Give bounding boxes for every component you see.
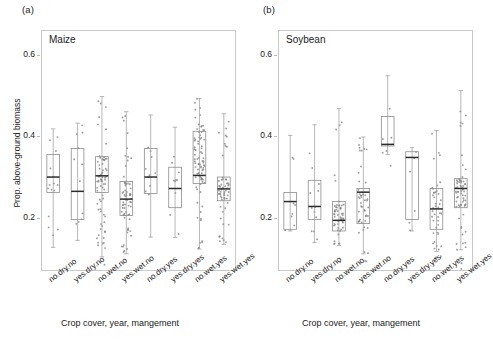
data-point bbox=[318, 183, 320, 185]
data-point bbox=[194, 162, 196, 164]
data-point bbox=[148, 174, 150, 176]
data-point bbox=[195, 149, 197, 151]
data-point bbox=[390, 137, 392, 139]
data-point bbox=[103, 159, 105, 161]
data-point bbox=[456, 179, 458, 181]
data-point bbox=[341, 213, 343, 215]
data-point bbox=[437, 216, 439, 218]
data-point bbox=[57, 229, 59, 231]
data-point bbox=[194, 158, 196, 160]
data-point bbox=[99, 199, 101, 201]
data-point bbox=[434, 248, 436, 250]
y-tick-mark bbox=[37, 136, 40, 137]
data-point bbox=[202, 167, 204, 169]
data-point bbox=[127, 229, 129, 231]
data-point bbox=[460, 268, 462, 270]
data-point bbox=[227, 194, 229, 196]
data-point bbox=[337, 214, 339, 216]
data-point bbox=[220, 191, 222, 193]
data-point bbox=[196, 202, 198, 204]
data-point bbox=[200, 211, 202, 213]
data-point bbox=[311, 207, 313, 209]
y-tick-label: 0.4 bbox=[250, 130, 272, 140]
data-point bbox=[124, 207, 126, 209]
data-point bbox=[462, 123, 464, 125]
data-point bbox=[359, 137, 361, 139]
data-point bbox=[462, 164, 464, 166]
data-point bbox=[197, 168, 199, 170]
data-point bbox=[456, 243, 458, 245]
data-point bbox=[178, 171, 180, 173]
data-point bbox=[196, 128, 198, 130]
data-point bbox=[221, 199, 223, 201]
data-point bbox=[432, 194, 434, 196]
data-point bbox=[48, 226, 50, 228]
data-point bbox=[194, 161, 196, 163]
data-point bbox=[291, 216, 293, 218]
data-point bbox=[337, 223, 339, 225]
data-point bbox=[465, 200, 467, 202]
data-point bbox=[102, 198, 104, 200]
data-point bbox=[386, 150, 388, 152]
data-point bbox=[340, 207, 342, 209]
data-point bbox=[218, 132, 220, 134]
data-point bbox=[432, 232, 434, 234]
data-point bbox=[431, 133, 433, 135]
data-point bbox=[49, 139, 51, 141]
y-tick-label: 0.2 bbox=[250, 212, 272, 222]
data-point bbox=[334, 205, 336, 207]
data-point bbox=[336, 209, 338, 211]
data-point bbox=[196, 217, 198, 219]
data-point bbox=[195, 166, 197, 168]
data-point bbox=[123, 176, 125, 178]
data-point bbox=[78, 221, 80, 223]
data-point bbox=[130, 206, 132, 208]
data-point bbox=[439, 154, 441, 156]
data-point bbox=[463, 191, 465, 193]
boxplot-canvas-b bbox=[241, 0, 481, 341]
data-point bbox=[433, 158, 435, 160]
data-point bbox=[104, 264, 106, 266]
data-point bbox=[335, 129, 337, 131]
y-tick-mark bbox=[37, 55, 40, 56]
data-point bbox=[337, 210, 339, 212]
data-point bbox=[218, 190, 220, 192]
data-point bbox=[50, 168, 52, 170]
data-point bbox=[200, 179, 202, 181]
data-point bbox=[105, 106, 107, 108]
data-point bbox=[48, 215, 50, 217]
data-point bbox=[225, 179, 227, 181]
data-point bbox=[335, 180, 337, 182]
data-point bbox=[336, 204, 338, 206]
data-point bbox=[100, 228, 102, 230]
data-point bbox=[201, 169, 203, 171]
data-point bbox=[97, 100, 99, 102]
data-point bbox=[465, 203, 467, 205]
data-point bbox=[96, 187, 98, 189]
data-point bbox=[358, 211, 360, 213]
data-point bbox=[390, 165, 392, 167]
data-point bbox=[293, 224, 295, 226]
data-point bbox=[433, 196, 435, 198]
data-point bbox=[79, 180, 81, 182]
data-point bbox=[465, 168, 467, 170]
data-point bbox=[124, 190, 126, 192]
data-point bbox=[104, 247, 106, 249]
data-point bbox=[342, 227, 344, 229]
data-point bbox=[462, 234, 464, 236]
data-point bbox=[224, 185, 226, 187]
data-point bbox=[333, 223, 335, 225]
data-point bbox=[105, 168, 107, 170]
data-point bbox=[97, 244, 99, 246]
data-point bbox=[98, 116, 100, 118]
data-point bbox=[122, 207, 124, 209]
data-point bbox=[389, 108, 391, 110]
data-point bbox=[201, 172, 203, 174]
data-point bbox=[364, 220, 366, 222]
data-point bbox=[127, 132, 129, 134]
data-point bbox=[455, 206, 457, 208]
data-point bbox=[437, 206, 439, 208]
data-point bbox=[73, 158, 75, 160]
data-point bbox=[154, 172, 156, 174]
data-point bbox=[96, 237, 98, 239]
